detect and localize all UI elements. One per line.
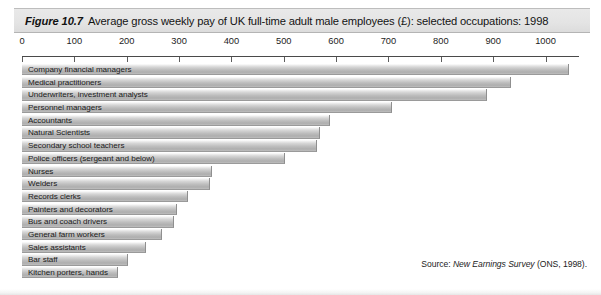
x-axis-tick-label: 700 bbox=[381, 36, 397, 46]
bar bbox=[22, 178, 210, 189]
bar-row: General farm workers bbox=[0, 229, 601, 241]
figure-number: Figure 10.7 bbox=[25, 15, 83, 27]
bar-row: Nurses bbox=[0, 166, 601, 178]
bar-row: Police officers (sergeant and below) bbox=[0, 153, 601, 165]
bar bbox=[22, 77, 511, 88]
source-publication: New Earnings Survey bbox=[453, 259, 535, 269]
bar-row: Company financial managers bbox=[0, 64, 601, 76]
x-axis-tick-label: 500 bbox=[276, 36, 292, 46]
bar bbox=[22, 204, 177, 215]
bar bbox=[22, 127, 320, 138]
x-axis-tick-label: 600 bbox=[328, 36, 344, 46]
x-axis-tick-mark bbox=[336, 57, 337, 62]
chart-plot-area: 01002003004005006007008009001000 Company… bbox=[0, 36, 601, 276]
bar-row: Painters and decorators bbox=[0, 204, 601, 216]
x-axis-tick-mark bbox=[74, 57, 75, 62]
x-axis-tick-mark bbox=[284, 57, 285, 62]
bar bbox=[22, 153, 285, 164]
bar-row: Personnel managers bbox=[0, 102, 601, 114]
bar-row: Accountants bbox=[0, 115, 601, 127]
x-axis-tick-mark bbox=[22, 57, 23, 62]
bar bbox=[22, 254, 128, 265]
x-axis-tick-label: 900 bbox=[485, 36, 501, 46]
x-axis-tick-mark bbox=[546, 57, 547, 62]
bar bbox=[22, 64, 569, 75]
x-axis-tick-label: 300 bbox=[171, 36, 187, 46]
x-axis-tick-label: 100 bbox=[67, 36, 83, 46]
x-axis-tick-mark bbox=[179, 57, 180, 62]
bar bbox=[22, 89, 487, 100]
x-axis-tick-mark bbox=[493, 57, 494, 62]
bar bbox=[22, 242, 146, 253]
x-axis-tick-label: 200 bbox=[119, 36, 135, 46]
bar bbox=[22, 140, 317, 151]
x-axis-tick-label: 1000 bbox=[535, 36, 556, 46]
x-axis-tick-labels: 01002003004005006007008009001000 bbox=[0, 36, 601, 51]
bar bbox=[22, 216, 174, 227]
bar-row: Sales assistants bbox=[0, 242, 601, 254]
bar-row: Medical practitioners bbox=[0, 77, 601, 89]
source-note: Source: New Earnings Survey (ONS, 1998). bbox=[421, 259, 587, 269]
x-axis-line bbox=[22, 56, 579, 57]
x-axis-tick-mark bbox=[388, 57, 389, 62]
x-axis-tick-label: 400 bbox=[224, 36, 240, 46]
bar bbox=[22, 229, 162, 240]
source-suffix: (ONS, 1998). bbox=[537, 259, 587, 269]
bar-row: Welders bbox=[0, 178, 601, 190]
bar bbox=[22, 191, 188, 202]
bar-row: Secondary school teachers bbox=[0, 140, 601, 152]
bar-series: Company financial managersMedical practi… bbox=[0, 64, 601, 280]
bar bbox=[22, 267, 118, 278]
x-axis-tick-mark bbox=[441, 57, 442, 62]
x-axis-tick-mark bbox=[127, 57, 128, 62]
figure-title-band: Figure 10.7 Average gross weekly pay of … bbox=[14, 8, 590, 33]
bar bbox=[22, 115, 330, 126]
figure-title: Average gross weekly pay of UK full-time… bbox=[88, 15, 548, 27]
bar-row: Records clerks bbox=[0, 191, 601, 203]
bar bbox=[22, 102, 392, 113]
source-prefix: Source: bbox=[421, 259, 450, 269]
x-axis-tick-label: 0 bbox=[19, 36, 24, 46]
figure-container: Figure 10.7 Average gross weekly pay of … bbox=[0, 0, 601, 295]
bar bbox=[22, 166, 212, 177]
bar-row: Bus and coach drivers bbox=[0, 216, 601, 228]
x-axis-tick-mark bbox=[231, 57, 232, 62]
x-axis-tick-label: 800 bbox=[433, 36, 449, 46]
page-bottom-edge bbox=[0, 289, 601, 295]
bar-row: Natural Scientists bbox=[0, 127, 601, 139]
bar-row: Underwriters, investment analysts bbox=[0, 89, 601, 101]
